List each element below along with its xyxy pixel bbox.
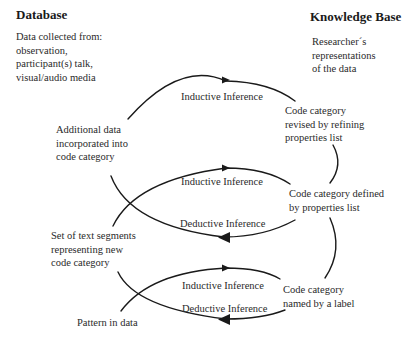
mid-deductive-label: Deductive Inference [180, 217, 265, 230]
node-line: code category [51, 256, 110, 270]
node-pattern-in-data: Pattern in data [77, 316, 138, 330]
node-line: code category [56, 150, 115, 164]
right-connector-lower [325, 218, 336, 278]
node-line: by properties list [289, 201, 360, 215]
node-line: Code category [283, 283, 344, 297]
arrowhead-right-icon [222, 77, 230, 84]
right-connector-upper [330, 145, 338, 183]
arrowhead-right-icon [222, 165, 230, 172]
arrowhead-left-icon [218, 232, 230, 243]
node-line: representing new [51, 243, 123, 257]
mid-inductive-label: Inductive Inference [181, 175, 263, 188]
arrowhead-left-icon [218, 314, 230, 325]
node-line: properties list [285, 131, 342, 145]
node-line: Set of text segments [51, 229, 136, 243]
top-inductive-label: Inductive Inference [181, 90, 263, 103]
node-line: revised by refining [285, 118, 364, 132]
node-line: Code category [285, 104, 346, 118]
bottom-inductive-label: Inductive Inference [182, 279, 264, 292]
node-line: Additional data [56, 123, 121, 137]
bottom-deductive-label: Deductive Inference [182, 302, 267, 315]
arrowhead-right-icon [222, 265, 230, 272]
node-line: named by a label [283, 297, 354, 311]
node-line: incorporated into [56, 137, 128, 151]
node-line: Code category defined [289, 187, 384, 201]
